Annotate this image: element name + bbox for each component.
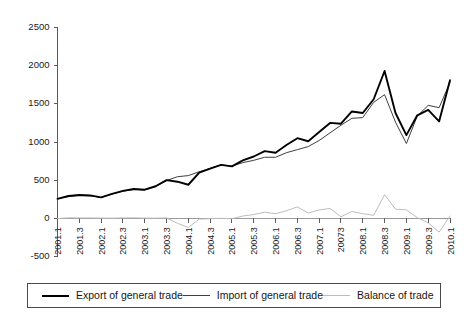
x-axis-tick-label: 2010.1 bbox=[446, 227, 456, 255]
x-axis-tick-label: 2001.3 bbox=[75, 227, 85, 255]
legend-item-export[interactable]: Export of general trade bbox=[42, 290, 183, 301]
legend-label-export: Export of general trade bbox=[76, 290, 183, 301]
x-axis-tick-label: 2003.3 bbox=[162, 227, 172, 255]
line-swatch-import-icon bbox=[183, 295, 210, 296]
y-axis-tick-label: 2000 bbox=[28, 59, 49, 70]
y-axis-tick-label: -500 bbox=[30, 250, 49, 261]
x-axis-tick-label: 20073 bbox=[336, 227, 346, 252]
series-line-balance bbox=[58, 195, 451, 232]
line-swatch-balance-icon bbox=[323, 295, 350, 296]
y-axis-tick-label: 0 bbox=[44, 212, 49, 223]
y-axis-tick-label: 1000 bbox=[28, 136, 49, 147]
x-axis-tick-label: 2006.1 bbox=[271, 227, 281, 255]
chart-plot-area: 25002000150010005000-500 2001.12001.3200… bbox=[0, 0, 466, 330]
x-axis-tick-label: 2002.1 bbox=[97, 227, 107, 255]
legend-item-import[interactable]: Import of general trade bbox=[183, 290, 323, 301]
data-series-group bbox=[58, 71, 451, 232]
y-axis-tick-label: 2500 bbox=[28, 21, 49, 32]
x-axis-tick-label: 2002.3 bbox=[118, 227, 128, 255]
series-line-export bbox=[58, 71, 451, 199]
trade-line-chart-figure: 25002000150010005000-500 2001.12001.3200… bbox=[0, 0, 466, 330]
x-axis-tick-label: 2009.1 bbox=[402, 227, 412, 255]
x-axis-tick-label: 2004.3 bbox=[206, 227, 216, 255]
legend-label-import: Import of general trade bbox=[217, 290, 323, 301]
line-swatch-export-icon bbox=[42, 295, 69, 297]
x-axis-tick-label: 2008.1 bbox=[358, 227, 368, 255]
y-axis-tick-label: 1500 bbox=[28, 97, 49, 108]
chart-legend: Export of general trade Import of genera… bbox=[27, 283, 441, 308]
x-axis-tick-label: 2005.1 bbox=[227, 227, 237, 255]
legend-item-balance[interactable]: Balance of trade bbox=[323, 290, 433, 301]
x-axis-tick-label: 2004.1 bbox=[184, 227, 194, 255]
x-axis-tick-label: 2001.1 bbox=[53, 227, 63, 255]
y-axis-tick-label: 500 bbox=[34, 174, 50, 185]
legend-label-balance: Balance of trade bbox=[357, 290, 433, 301]
x-axis-tick-label: 2006.3 bbox=[293, 227, 303, 255]
x-axis-tick-label: 2007.1 bbox=[315, 227, 325, 255]
x-axis: 2001.12001.32002.12002.32003.12003.32004… bbox=[53, 218, 456, 255]
x-axis-tick-label: 2003.1 bbox=[140, 227, 150, 255]
x-axis-tick-label: 2005.3 bbox=[249, 227, 259, 255]
x-axis-tick-label: 2008.3 bbox=[380, 227, 390, 255]
x-axis-tick-label: 2009.3 bbox=[424, 227, 434, 255]
y-axis: 25002000150010005000-500 bbox=[28, 21, 450, 261]
